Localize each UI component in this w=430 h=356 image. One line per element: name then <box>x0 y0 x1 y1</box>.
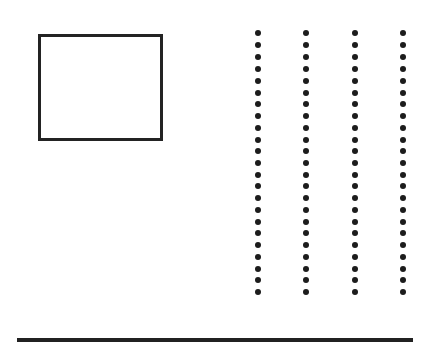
outline-rectangle <box>38 34 163 141</box>
dot-marker <box>400 207 406 213</box>
dot-marker <box>352 242 358 248</box>
dot-marker <box>352 42 358 48</box>
dot-marker <box>400 172 406 178</box>
dot-marker <box>400 219 406 225</box>
dot-marker <box>400 289 406 295</box>
dot-column <box>302 0 310 356</box>
dot-marker <box>400 90 406 96</box>
dot-marker <box>352 172 358 178</box>
dot-marker <box>255 195 261 201</box>
dot-marker <box>352 137 358 143</box>
dot-marker <box>255 42 261 48</box>
dot-marker <box>255 160 261 166</box>
dot-marker <box>352 160 358 166</box>
dot-marker <box>400 230 406 236</box>
dot-marker <box>400 42 406 48</box>
dot-marker <box>303 230 309 236</box>
dot-marker <box>255 242 261 248</box>
dot-marker <box>303 289 309 295</box>
dot-marker <box>303 219 309 225</box>
dot-marker <box>352 30 358 36</box>
dot-marker <box>303 78 309 84</box>
dot-marker <box>352 54 358 60</box>
dot-marker <box>303 66 309 72</box>
figure-canvas <box>0 0 430 356</box>
dot-marker <box>255 125 261 131</box>
dot-marker <box>303 195 309 201</box>
dot-marker <box>255 148 261 154</box>
dot-marker <box>255 219 261 225</box>
dot-marker <box>352 277 358 283</box>
bottom-rule <box>17 338 413 342</box>
dot-marker <box>400 242 406 248</box>
dot-marker <box>255 277 261 283</box>
dot-marker <box>400 113 406 119</box>
dot-marker <box>255 78 261 84</box>
dot-marker <box>303 277 309 283</box>
dot-marker <box>303 90 309 96</box>
dot-marker <box>352 207 358 213</box>
dot-marker <box>303 254 309 260</box>
dot-column <box>399 0 407 356</box>
dot-marker <box>255 289 261 295</box>
dot-marker <box>255 113 261 119</box>
dot-marker <box>303 42 309 48</box>
dot-marker <box>400 30 406 36</box>
dot-marker <box>255 66 261 72</box>
dot-marker <box>255 101 261 107</box>
dot-marker <box>400 78 406 84</box>
dot-marker <box>400 101 406 107</box>
dot-column <box>351 0 359 356</box>
dot-marker <box>303 113 309 119</box>
dot-marker <box>400 66 406 72</box>
dot-marker <box>303 101 309 107</box>
dot-marker <box>400 125 406 131</box>
dot-marker <box>352 101 358 107</box>
dot-marker <box>255 172 261 178</box>
dot-marker <box>400 266 406 272</box>
dot-marker <box>303 172 309 178</box>
dot-marker <box>352 289 358 295</box>
dot-marker <box>255 30 261 36</box>
dot-marker <box>303 207 309 213</box>
dot-marker <box>255 90 261 96</box>
dot-marker <box>352 113 358 119</box>
dot-marker <box>303 183 309 189</box>
dot-marker <box>352 254 358 260</box>
dot-marker <box>303 54 309 60</box>
dot-marker <box>255 137 261 143</box>
dot-marker <box>303 266 309 272</box>
dot-marker <box>255 254 261 260</box>
dot-marker <box>400 160 406 166</box>
dot-marker <box>352 266 358 272</box>
dot-marker <box>255 266 261 272</box>
dot-marker <box>255 54 261 60</box>
dot-marker <box>303 160 309 166</box>
dot-marker <box>352 148 358 154</box>
dot-marker <box>352 219 358 225</box>
dot-marker <box>352 230 358 236</box>
dot-marker <box>400 137 406 143</box>
dot-marker <box>255 207 261 213</box>
dot-marker <box>400 183 406 189</box>
dot-marker <box>400 277 406 283</box>
dot-marker <box>352 183 358 189</box>
dot-marker <box>352 195 358 201</box>
dot-marker <box>303 125 309 131</box>
dot-marker <box>303 242 309 248</box>
dot-marker <box>400 254 406 260</box>
dot-marker <box>352 78 358 84</box>
dot-marker <box>255 183 261 189</box>
dot-column <box>254 0 262 356</box>
dot-marker <box>400 195 406 201</box>
dot-marker <box>303 30 309 36</box>
dot-marker <box>303 137 309 143</box>
dot-marker <box>352 66 358 72</box>
dot-marker <box>400 148 406 154</box>
dot-marker <box>255 230 261 236</box>
dot-marker <box>303 148 309 154</box>
dot-marker <box>352 125 358 131</box>
dot-marker <box>400 54 406 60</box>
dot-marker <box>352 90 358 96</box>
